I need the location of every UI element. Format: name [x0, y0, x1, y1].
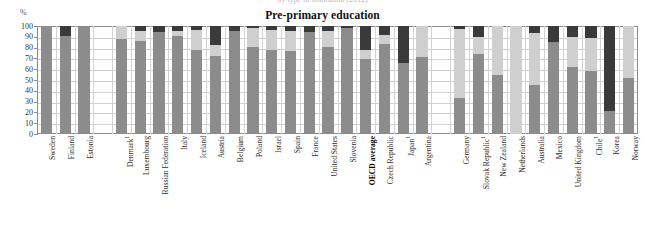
bar-sweden[interactable]: [41, 26, 52, 134]
category-separator: [338, 26, 339, 134]
bar-japan[interactable]: [398, 26, 409, 134]
x-label-austria: Austria: [218, 136, 226, 158]
bar-segment-independent-private: [379, 26, 390, 35]
bar-series-container: [37, 26, 638, 134]
category-separator: [150, 26, 151, 134]
bar-segment-public: [623, 78, 634, 134]
y-tick-label: 90: [5, 32, 33, 41]
bar-estonia[interactable]: [78, 26, 89, 134]
bar-segment-gov-dependent-private: [191, 30, 202, 49]
bar-segment-independent-private: [604, 26, 615, 111]
category-separator: [131, 26, 132, 134]
x-label-sweden: Sweden: [49, 136, 57, 160]
x-label-united-states: United States: [331, 136, 339, 177]
bar-segment-public: [548, 42, 559, 134]
bar-segment-public: [454, 98, 465, 134]
bar-segment-public: [135, 41, 146, 134]
bar-segment-public: [567, 67, 578, 134]
x-label-australia: Australia: [538, 136, 546, 164]
bar-israel[interactable]: [266, 26, 277, 134]
category-separator: [319, 26, 320, 134]
bar-segment-gov-dependent-private: [585, 38, 596, 71]
bar-norway[interactable]: [623, 26, 634, 134]
bar-segment-public: [379, 44, 390, 134]
category-separator: [413, 26, 414, 134]
bar-segment-public: [78, 26, 89, 134]
bar-oecd-average[interactable]: [360, 26, 371, 134]
bar-segment-gov-dependent-private: [116, 26, 127, 39]
bar-segment-gov-dependent-private: [360, 50, 371, 60]
bar-russian-federation[interactable]: [153, 26, 164, 134]
category-separator: [300, 26, 301, 134]
bar-spain[interactable]: [285, 26, 296, 134]
bar-segment-public: [41, 26, 52, 134]
x-label-new-zealand: New Zealand: [500, 136, 508, 177]
x-label-finland: Finland: [68, 136, 76, 159]
bar-austria[interactable]: [210, 26, 221, 134]
y-tick-label: 50: [5, 76, 33, 85]
bar-segment-gov-dependent-private: [567, 37, 578, 67]
bar-mexico[interactable]: [548, 26, 559, 134]
bar-segment-public: [304, 32, 315, 134]
bar-segment-public: [585, 71, 596, 134]
bar-new-zealand[interactable]: [492, 26, 503, 134]
bar-segment-public: [322, 47, 333, 134]
x-label-italy: Italy: [181, 136, 189, 150]
bar-belgium[interactable]: [229, 26, 240, 134]
category-separator: [262, 26, 263, 134]
y-tick-label: 40: [5, 86, 33, 95]
x-label-norway: Norway: [632, 136, 640, 160]
x-label-slovak-republic: Slovak Republic1: [481, 136, 490, 189]
bar-denmark[interactable]: [116, 26, 127, 134]
bar-segment-public: [398, 63, 409, 134]
bar-chile[interactable]: [585, 26, 596, 134]
x-label-netherlands: Netherlands: [519, 136, 527, 173]
category-separator: [168, 26, 169, 134]
bar-luxembourg[interactable]: [135, 26, 146, 134]
x-label-korea: Korea: [613, 136, 621, 155]
bar-argentina[interactable]: [416, 26, 427, 134]
bar-segment-public: [210, 56, 221, 134]
bar-segment-independent-private: [473, 26, 484, 37]
category-separator: [469, 26, 470, 134]
y-tick-label: 100: [5, 22, 33, 31]
bar-segment-public: [473, 54, 484, 134]
bar-segment-gov-dependent-private: [473, 37, 484, 54]
bar-netherlands[interactable]: [510, 26, 521, 134]
y-tick-label: 0: [5, 130, 33, 139]
bar-korea[interactable]: [604, 26, 615, 134]
y-tick-label: 30: [5, 97, 33, 106]
bar-finland[interactable]: [60, 26, 71, 134]
category-separator: [356, 26, 357, 134]
cutoff-caption-text: by type of institution (2012): [0, 0, 645, 4]
bar-segment-public: [604, 111, 615, 134]
x-label-estonia: Estonia: [87, 136, 95, 159]
category-separator: [431, 26, 432, 134]
bar-germany[interactable]: [454, 26, 465, 134]
x-label-denmark: Denmark1: [125, 136, 134, 167]
bar-segment-public: [229, 31, 240, 134]
bar-segment-public: [266, 50, 277, 134]
bar-czech-republic[interactable]: [379, 26, 390, 134]
bar-segment-public: [60, 36, 71, 134]
bar-australia[interactable]: [529, 26, 540, 134]
bar-slovak-republic[interactable]: [473, 26, 484, 134]
bar-slovenia[interactable]: [341, 26, 352, 134]
bar-united-kingdom[interactable]: [567, 26, 578, 134]
bar-united-states[interactable]: [322, 26, 333, 134]
y-tick-label: 70: [5, 54, 33, 63]
x-label-oecd-average: OECD average: [369, 136, 377, 185]
x-label-czech-republic: Czech Republic: [387, 136, 395, 184]
bar-italy[interactable]: [172, 26, 183, 134]
bar-segment-independent-private: [60, 26, 71, 36]
x-label-chile: Chile1: [594, 136, 603, 155]
bar-segment-gov-dependent-private: [266, 30, 277, 49]
x-label-germany: Germany: [463, 136, 471, 164]
bar-iceland[interactable]: [191, 26, 202, 134]
x-label-slovenia: Slovenia: [350, 136, 358, 163]
x-label-mexico: Mexico: [556, 136, 564, 159]
bar-segment-independent-private: [398, 26, 409, 63]
bar-poland[interactable]: [247, 26, 258, 134]
bar-segment-independent-private: [548, 26, 559, 42]
bar-france[interactable]: [304, 26, 315, 134]
